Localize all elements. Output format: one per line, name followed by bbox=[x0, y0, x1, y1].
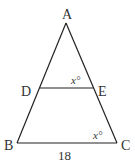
segment-ab bbox=[17, 23, 66, 143]
vertex-label-d: D bbox=[21, 84, 31, 99]
vertex-label-e: E bbox=[98, 84, 107, 99]
vertex-label-a: A bbox=[62, 7, 73, 22]
side-label-bc: 18 bbox=[58, 148, 71, 163]
triangle-diagram: A D E B C x° x° 18 bbox=[0, 0, 135, 163]
angle-label-c: x° bbox=[92, 129, 103, 141]
vertex-label-b: B bbox=[4, 138, 13, 153]
angle-label-e: x° bbox=[70, 74, 81, 86]
vertex-label-c: C bbox=[121, 138, 130, 153]
